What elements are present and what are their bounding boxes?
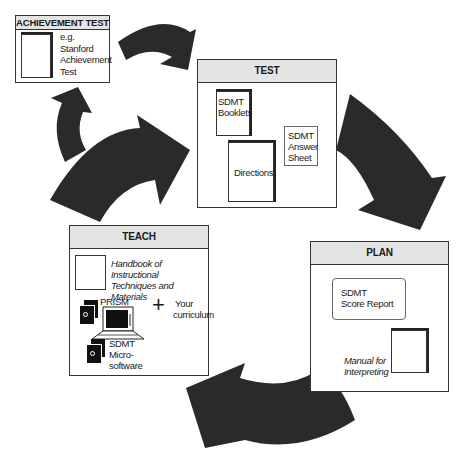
teach-title: TEACH — [70, 226, 208, 249]
directions-book-icon: Directions — [228, 142, 274, 202]
achievement-test-title: ACHIEVEMENT TEST — [16, 16, 109, 30]
achievement-test-desc: e.g. Stanford Achievement Test — [60, 31, 112, 77]
plan-box: PLAN SDMT Score Report Manual for Interp… — [310, 241, 449, 392]
achievement-test-book-icon — [21, 34, 51, 78]
handbook-icon — [75, 255, 106, 290]
arrow-teach-to-achievement — [51, 87, 92, 162]
achievement-test-box: ACHIEVEMENT TEST e.g. Stanford Achieveme… — [15, 15, 110, 83]
directions-label: Directions — [234, 167, 273, 178]
teach-box: TEACH Handbook of Instructional Techniqu… — [69, 225, 209, 376]
micro-disk-icon — [86, 344, 102, 364]
booklets-book-icon: SDMT Booklets — [216, 91, 250, 136]
manual-book-icon — [391, 330, 427, 373]
test-title: TEST — [198, 60, 336, 83]
manual-label: Manual for Interpreting — [344, 355, 388, 377]
answer-sheet-label: SDMT Answer Sheet — [288, 130, 318, 163]
plus-sign: + — [152, 294, 165, 316]
test-box: TEST SDMT Booklets Directions SDMT Answe… — [197, 59, 337, 208]
curriculum-label: Your curriculum — [173, 298, 214, 320]
score-report-icon: SDMT Score Report — [332, 278, 406, 320]
microsoftware-label: SDMT Micro- software — [109, 338, 143, 371]
booklets-label: SDMT Booklets — [218, 96, 252, 118]
arrow-achievement-to-test — [118, 24, 196, 70]
score-report-label: SDMT Score Report — [341, 287, 393, 309]
arrow-test-to-plan — [336, 94, 446, 230]
plan-title: PLAN — [311, 242, 448, 265]
answer-sheet-icon: SDMT Answer Sheet — [284, 126, 318, 166]
computer-icon — [92, 306, 148, 342]
